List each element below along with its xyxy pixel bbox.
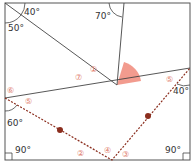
marker-3: ③ [122,150,129,159]
marker-4: ④ [104,146,111,155]
angle-label-60: 60° [7,118,23,128]
marker-5-right: ⑤ [166,75,173,84]
arc-50 [5,15,21,23]
right-angle-left [5,153,12,160]
geometry-diagram: 40° 50° 70° 40° 60° 90° 90° ① ⑦ ⑥ ⑤ ⑤ ② … [0,0,194,162]
highlighted-angle-sector [117,62,141,85]
outer-frame [5,3,190,160]
right-angle-right [183,153,190,160]
marker-7: ⑦ [75,73,82,82]
angle-label-90-left: 90° [15,145,31,155]
dashed-v-path [5,68,190,160]
angle-label-50: 50° [8,23,24,33]
angle-label-90-right: 90° [165,145,181,155]
angle-label-70: 70° [95,11,111,21]
marker-1: ① [90,65,97,74]
dot-right [145,113,151,119]
angle-label-40-top: 40° [24,7,40,17]
marker-2: ② [77,149,84,158]
angle-label-40-right: 40° [173,86,189,96]
arc-60 [5,105,17,111]
marker-6: ⑥ [7,86,14,95]
dot-left [57,127,63,133]
transversal-line [5,68,190,98]
marker-5-left: ⑤ [25,97,32,106]
